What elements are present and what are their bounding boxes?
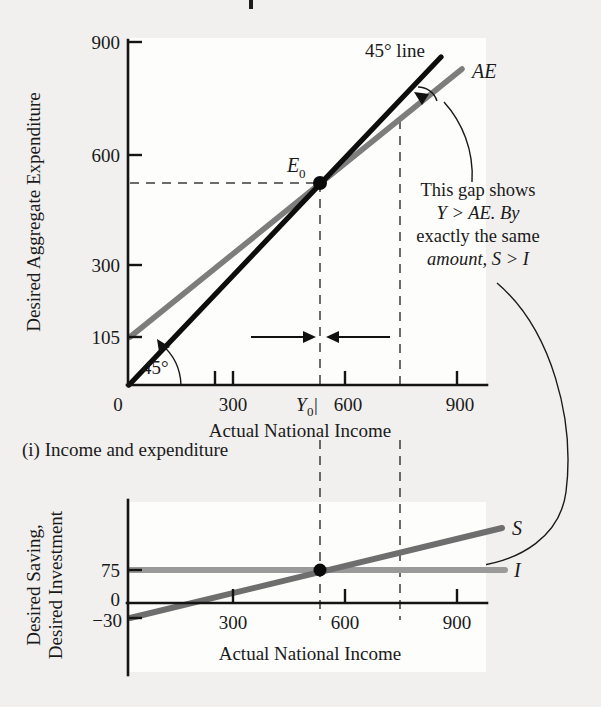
top-y-tick-label-900: 900 xyxy=(92,32,121,53)
investment-line-label: I xyxy=(513,559,522,581)
equilibrium-point-e0 xyxy=(313,176,327,190)
economics-figure: 900 600 300 105 0 300 600 900 Y 0 | Actu… xyxy=(0,0,601,707)
equilibrium-label-e0-subscript: 0 xyxy=(299,166,306,181)
ae-line-label: AE xyxy=(470,60,496,82)
figure-canvas: 900 600 300 105 0 300 600 900 Y 0 | Actu… xyxy=(0,0,601,707)
top-x-tick-label-300: 300 xyxy=(219,394,248,415)
top-x-tick-label-900: 900 xyxy=(446,394,475,415)
bottom-equilibrium-point xyxy=(314,564,327,577)
annotation-pointer-curve-bottom xyxy=(478,283,568,566)
bottom-panel-x-axis-title: Actual National Income xyxy=(219,643,402,664)
y0-axis-label-bar: | xyxy=(314,394,318,415)
gap-annotation-line-1: This gap shows xyxy=(420,180,535,200)
top-y-tick-label-300: 300 xyxy=(92,255,121,276)
forty-five-degree-line-label: 45° line xyxy=(365,40,425,61)
top-y-tick-label-105: 105 xyxy=(92,327,121,348)
top-y-tick-label-600: 600 xyxy=(92,145,121,166)
top-panel-y-axis-title: Desired Aggregate Expenditure xyxy=(23,92,44,332)
cropped-title-fragment xyxy=(249,0,253,9)
bottom-panel-y-axis-title-line1: Desired Saving, xyxy=(23,524,44,645)
panel-caption-i: (i) Income and expenditure xyxy=(22,439,228,461)
bottom-y-tick-label-75: 75 xyxy=(101,560,120,581)
top-x-tick-label-0: 0 xyxy=(113,394,123,415)
forty-five-angle-label: 45° xyxy=(142,357,169,378)
bottom-x-tick-label-900: 900 xyxy=(443,612,472,633)
bottom-y-tick-label-minus30: −30 xyxy=(92,610,122,631)
equilibrium-label-e0: E xyxy=(286,154,299,176)
bottom-panel-y-axis-title-line2: Desired Investment xyxy=(45,510,66,659)
saving-line-label: S xyxy=(512,517,522,539)
gap-annotation-line-2: Y > AE. By xyxy=(436,203,520,223)
top-panel-x-axis-title: Actual National Income xyxy=(209,420,392,441)
bottom-x-tick-label-600: 600 xyxy=(331,612,360,633)
bottom-x-tick-label-300: 300 xyxy=(219,612,248,633)
gap-annotation-line-3: exactly the same xyxy=(416,226,539,246)
y0-axis-label-subscript: 0 xyxy=(307,404,314,419)
top-x-tick-label-600: 600 xyxy=(334,394,363,415)
gap-annotation-line-4: amount, S > I xyxy=(427,249,530,269)
bottom-y-tick-label-0: 0 xyxy=(111,589,121,610)
